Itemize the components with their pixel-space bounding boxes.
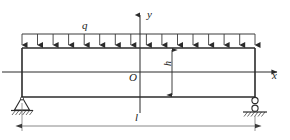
roller-support-right	[243, 97, 267, 116]
roller-circle-upper-icon	[252, 97, 258, 103]
load-label-q: q	[82, 20, 88, 31]
x-axis-label: x	[272, 70, 277, 81]
span-length-label: l	[135, 112, 138, 123]
beam-height-label: h	[163, 61, 173, 66]
coordinate-axes	[2, 15, 277, 113]
roller-circle-lower-icon	[252, 105, 258, 111]
load-arrows	[22, 34, 255, 45]
beam-diagram-figure: q y x O l h	[0, 0, 290, 140]
span-dimension	[22, 103, 255, 131]
pin-hinge-dot	[21, 97, 24, 100]
origin-label: O	[129, 72, 137, 83]
roller-ground-hatching	[244, 112, 265, 117]
distributed-load-group	[22, 34, 255, 45]
y-axis-label: y	[147, 9, 152, 20]
beam-diagram-canvas	[0, 0, 290, 140]
pin-ground-hatching	[12, 111, 33, 116]
